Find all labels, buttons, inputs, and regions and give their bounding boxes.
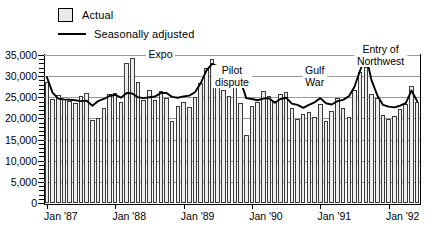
y-minor-tick (39, 93, 44, 94)
y-minor-tick (39, 152, 44, 153)
y-tick-label-0: 0 (31, 197, 37, 209)
y-tick-label-35000: 35,000 (5, 49, 37, 61)
y-tick-label-30000: 30,000 (5, 70, 37, 82)
y-tick-mark-10000 (38, 161, 44, 162)
y-minor-tick (39, 173, 44, 174)
y-minor-tick (39, 102, 44, 103)
legend-item-actual: Actual (58, 6, 194, 23)
y-minor-tick (39, 169, 44, 170)
y-minor-tick (39, 165, 44, 166)
y-minor-tick (39, 144, 44, 145)
y-minor-tick (39, 135, 44, 136)
y-minor-tick (39, 148, 44, 149)
solid-line-swatch-icon (58, 33, 86, 35)
y-tick-label-5000: 5,000 (11, 176, 37, 188)
annotation-line: dispute (215, 77, 249, 89)
y-minor-tick (39, 178, 44, 179)
y-minor-tick (39, 123, 44, 124)
x-tick-label: Jan '90 (249, 210, 283, 222)
hatched-square-swatch-icon (58, 8, 73, 22)
y-tick-label-15000: 15,000 (5, 134, 37, 146)
x-tick-mark (115, 204, 116, 209)
plot-right-border (420, 54, 421, 204)
x-tick-mark (389, 204, 390, 209)
y-minor-tick (39, 127, 44, 128)
x-tick-mark (252, 204, 253, 209)
x-tick-mark (47, 204, 48, 209)
y-minor-tick (39, 85, 44, 86)
y-minor-tick (39, 63, 44, 64)
y-minor-tick (39, 89, 44, 90)
x-axis-line (44, 204, 421, 205)
y-minor-tick (39, 110, 44, 111)
y-tick-label-25000: 25,000 (5, 91, 37, 103)
y-minor-tick (39, 72, 44, 73)
annotation-pilot-dispute: Pilotdispute (212, 65, 252, 88)
x-tick-label: Jan '88 (112, 210, 146, 222)
annotation-line: Gulf (305, 65, 324, 77)
y-minor-tick (39, 68, 44, 69)
y-axis-labels: 05,00010,00015,00020,00025,00030,00035,0… (0, 0, 37, 248)
y-tick-mark-5000 (38, 182, 44, 183)
legend-item-seasonally-adjusted: Seasonally adjusted (58, 25, 194, 42)
legend-label-seasonally-adjusted: Seasonally adjusted (94, 28, 194, 40)
y-minor-tick (39, 199, 44, 200)
y-tick-mark-30000 (38, 76, 44, 77)
x-tick-label: Jan '87 (44, 210, 78, 222)
x-tick-label: Jan '89 (181, 210, 215, 222)
y-tick-label-10000: 10,000 (5, 155, 37, 167)
y-tick-mark-25000 (38, 97, 44, 98)
y-minor-tick (39, 186, 44, 187)
y-tick-label-20000: 20,000 (5, 112, 37, 124)
chart-legend: Actual Seasonally adjusted (58, 6, 194, 42)
y-minor-tick (39, 59, 44, 60)
y-minor-tick (39, 195, 44, 196)
y-minor-tick (39, 131, 44, 132)
y-minor-tick (39, 106, 44, 107)
y-tick-mark-35000 (38, 55, 44, 56)
x-tick-mark (184, 204, 185, 209)
x-tick-label: Jan '92 (386, 210, 420, 222)
chart-figure: Actual Seasonally adjusted 05,00010,0001… (0, 0, 432, 248)
y-tick-mark-15000 (38, 140, 44, 141)
y-minor-tick (39, 80, 44, 81)
annotation-entry-of-northwest: Entry ofNorthwest (354, 44, 407, 67)
annotation-gulf-war: GulfWar (302, 65, 327, 88)
annotation-line: Expo (149, 49, 173, 61)
y-minor-tick (39, 114, 44, 115)
y-minor-tick (39, 156, 44, 157)
annotation-line: Entry of (357, 44, 404, 56)
annotation-line: Northwest (357, 56, 404, 68)
annotation-expo: Expo (146, 49, 176, 61)
annotation-line: War (305, 77, 324, 89)
x-tick-label: Jan '91 (318, 210, 352, 222)
x-tick-mark (320, 204, 321, 209)
y-tick-mark-0 (38, 203, 44, 204)
legend-label-actual: Actual (82, 9, 113, 21)
annotation-line: Pilot (215, 65, 249, 77)
y-minor-tick (39, 190, 44, 191)
y-tick-mark-20000 (38, 118, 44, 119)
